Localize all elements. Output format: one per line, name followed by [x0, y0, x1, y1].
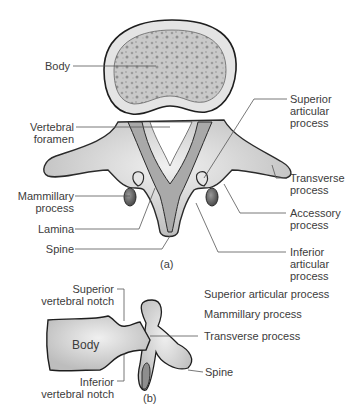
mammillary-process-right	[206, 188, 218, 206]
label-superior-vertebral-notch: Superior vertebral notch	[41, 283, 114, 307]
label-body-b: Body	[72, 339, 99, 351]
label-vertebral-foramen: Vertebral foramen	[30, 121, 74, 145]
figure-a-superior-view	[44, 20, 291, 237]
label-inferior-vertebral-notch: Inferior vertebral notch	[41, 376, 114, 400]
label-body-a: Body	[45, 60, 70, 72]
label-transverse-process-a: Transverse process	[290, 172, 345, 196]
label-inferior-articular-process: Inferior articular process	[290, 246, 329, 282]
label-lamina: Lamina	[38, 223, 74, 235]
caption-b: (b)	[143, 392, 156, 404]
label-transverse-process-b: Transverse process	[204, 330, 300, 342]
label-accessory-process: Accessory process	[290, 207, 341, 231]
label-mammillary-process-b: Mammillary process	[204, 308, 302, 320]
label-spine-b: Spine	[205, 366, 233, 378]
label-mammillary-process-a: Mammillary process	[18, 190, 74, 214]
mammillary-process-left	[124, 188, 136, 206]
label-superior-articular-process: Superior articular process	[290, 93, 332, 129]
label-spine-a: Spine	[46, 243, 74, 255]
caption-a: (a)	[160, 258, 173, 270]
label-superior-articular-process-b: Superior articular process	[204, 288, 329, 300]
